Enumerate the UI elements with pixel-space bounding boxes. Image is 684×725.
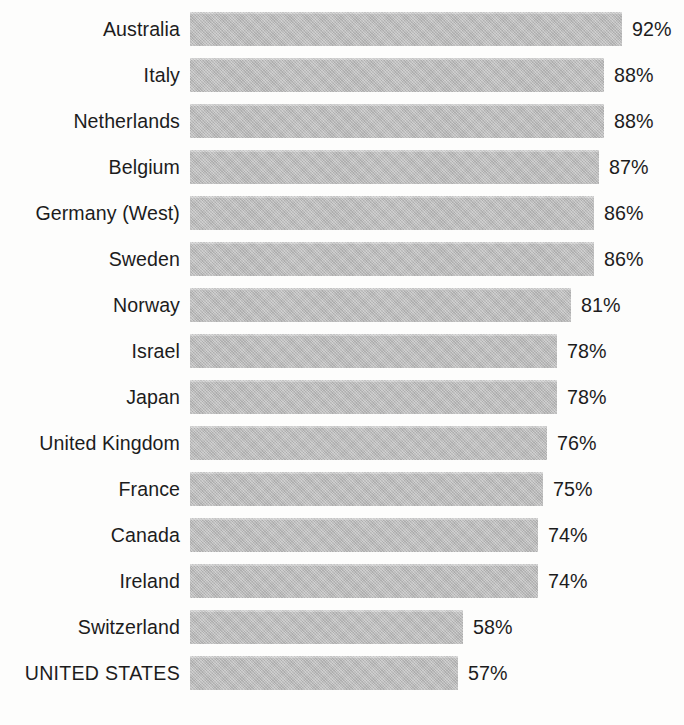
chart-row: Japan78% [0, 380, 684, 426]
bar-track: 75% [190, 472, 684, 506]
bar [190, 564, 538, 598]
bar-track: 76% [190, 426, 684, 460]
chart-row: Norway81% [0, 288, 684, 334]
category-label: Belgium [8, 150, 180, 184]
bar-track: 92% [190, 12, 684, 46]
bar-track: 57% [190, 656, 684, 690]
bar-track: 58% [190, 610, 684, 644]
chart-row: United Kingdom76% [0, 426, 684, 472]
value-label: 74% [548, 518, 587, 552]
chart-row: Sweden86% [0, 242, 684, 288]
chart-row: UNITED STATES57% [0, 656, 684, 702]
value-label: 75% [553, 472, 592, 506]
bar [190, 104, 604, 138]
chart-row: Canada74% [0, 518, 684, 564]
category-label: Ireland [8, 564, 180, 598]
value-label: 74% [548, 564, 587, 598]
value-label: 92% [632, 12, 671, 46]
bar-track: 78% [190, 380, 684, 414]
bar [190, 472, 543, 506]
category-label: Switzerland [8, 610, 180, 644]
bar-track: 86% [190, 242, 684, 276]
bar-track: 88% [190, 104, 684, 138]
category-label: Sweden [8, 242, 180, 276]
category-label: United Kingdom [8, 426, 180, 460]
value-label: 76% [557, 426, 596, 460]
bar-track: 81% [190, 288, 684, 322]
chart-row: Ireland74% [0, 564, 684, 610]
bar [190, 288, 571, 322]
value-label: 88% [614, 58, 653, 92]
chart-row: Australia92% [0, 12, 684, 58]
bar [190, 242, 594, 276]
chart-row: Israel78% [0, 334, 684, 380]
value-label: 87% [609, 150, 648, 184]
chart-row: Belgium87% [0, 150, 684, 196]
bar [190, 610, 463, 644]
value-label: 88% [614, 104, 653, 138]
value-label: 57% [468, 656, 507, 690]
chart-row: Italy88% [0, 58, 684, 104]
category-label: Netherlands [8, 104, 180, 138]
category-label: Australia [8, 12, 180, 46]
chart-row: Germany (West)86% [0, 196, 684, 242]
bar [190, 12, 622, 46]
bar-track: 87% [190, 150, 684, 184]
category-label: Canada [8, 518, 180, 552]
value-label: 58% [473, 610, 512, 644]
category-label: Israel [8, 334, 180, 368]
bar [190, 380, 557, 414]
horizontal-bar-chart: Australia92%Italy88%Netherlands88%Belgiu… [0, 0, 684, 725]
bar-track: 86% [190, 196, 684, 230]
category-label: Japan [8, 380, 180, 414]
bar-track: 74% [190, 564, 684, 598]
chart-row: France75% [0, 472, 684, 518]
chart-row: Switzerland58% [0, 610, 684, 656]
bar-track: 74% [190, 518, 684, 552]
bar [190, 518, 538, 552]
bar-track: 78% [190, 334, 684, 368]
bar [190, 334, 557, 368]
category-label: Germany (West) [8, 196, 180, 230]
bar [190, 58, 604, 92]
value-label: 86% [604, 242, 643, 276]
bar-track: 88% [190, 58, 684, 92]
value-label: 81% [581, 288, 620, 322]
category-label: Italy [8, 58, 180, 92]
bar [190, 656, 458, 690]
bar [190, 150, 599, 184]
category-label: UNITED STATES [8, 656, 180, 690]
chart-row: Netherlands88% [0, 104, 684, 150]
bar [190, 196, 594, 230]
bar [190, 426, 547, 460]
clipped-footnote [0, 716, 684, 725]
value-label: 78% [567, 380, 606, 414]
value-label: 86% [604, 196, 643, 230]
category-label: Norway [8, 288, 180, 322]
category-label: France [8, 472, 180, 506]
value-label: 78% [567, 334, 606, 368]
